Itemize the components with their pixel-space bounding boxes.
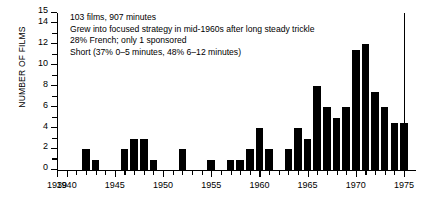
x-axis-tick-label: 1965 <box>298 180 318 190</box>
y-axis-tick: 15 <box>51 12 57 13</box>
annotation-line: Short (37% 0–5 minutes, 48% 6–12 minutes… <box>70 47 315 59</box>
y-axis-tick: 10 <box>51 64 57 65</box>
y-axis-tick <box>52 117 57 118</box>
bar <box>362 44 370 170</box>
y-axis-tick <box>52 138 57 139</box>
x-axis-line <box>57 170 416 171</box>
bar <box>294 128 302 170</box>
x-axis-tick <box>115 170 116 177</box>
x-axis-tick <box>337 170 338 175</box>
bar <box>130 139 138 170</box>
bar <box>371 92 379 171</box>
x-axis-tick-label: 1945 <box>105 180 125 190</box>
x-axis-tick <box>279 170 280 175</box>
x-axis-tick <box>346 170 347 175</box>
x-axis-tick <box>144 170 145 175</box>
annotation-line: Grew into focused strategy in mid-1960s … <box>70 24 315 36</box>
x-axis-tick <box>317 170 318 175</box>
x-axis-tick <box>67 170 68 177</box>
y-axis-tick: 4 <box>51 127 57 128</box>
bar <box>313 86 321 170</box>
x-axis-tick <box>105 170 106 175</box>
bar <box>82 149 90 170</box>
x-axis-tick <box>231 170 232 175</box>
x-axis-tick <box>394 170 395 175</box>
x-axis-tick <box>124 170 125 175</box>
x-axis-tick <box>153 170 154 175</box>
x-axis-tick <box>182 170 183 175</box>
bar <box>121 149 129 170</box>
x-axis-tick <box>76 170 77 175</box>
bar <box>323 107 331 170</box>
y-axis-tick-label: 14 <box>38 16 48 26</box>
x-axis-tick <box>298 170 299 175</box>
bar <box>381 107 389 170</box>
x-axis-tick-label: 1955 <box>201 180 221 190</box>
bar <box>265 149 273 170</box>
bar-chart-figure: NUMBER OF FILMS 0246810121415 1939194019… <box>0 0 439 208</box>
bar <box>140 139 148 170</box>
bar <box>236 160 244 170</box>
x-axis-tick <box>192 170 193 175</box>
x-axis-tick <box>259 170 260 177</box>
y-axis-line <box>57 13 58 170</box>
x-axis-tick <box>288 170 289 175</box>
x-axis-tick-label: 1950 <box>153 180 173 190</box>
x-axis-tick <box>211 170 212 177</box>
y-axis-tick <box>52 33 57 34</box>
annotation-text-block: 103 films, 907 minutesGrew into focused … <box>70 12 315 58</box>
x-axis-tick <box>365 170 366 175</box>
x-axis-tick <box>308 170 309 177</box>
x-axis-tick <box>404 170 405 177</box>
x-axis-tick <box>356 170 357 177</box>
x-axis-tick <box>134 170 135 175</box>
y-axis-tick: 12 <box>51 43 57 44</box>
y-axis-tick-label: 0 <box>43 162 48 172</box>
y-axis-tick-label: 4 <box>43 121 48 131</box>
bar <box>333 118 341 170</box>
y-axis-tick <box>52 158 57 159</box>
bar <box>92 160 100 170</box>
bar <box>400 123 408 170</box>
y-axis-tick: 2 <box>51 148 57 149</box>
y-axis-tick-label: 10 <box>38 58 48 68</box>
x-axis-tick <box>385 170 386 175</box>
bar <box>352 50 360 170</box>
x-axis-tick <box>57 170 58 177</box>
x-axis-tick-label: 1970 <box>346 180 366 190</box>
x-axis-tick <box>86 170 87 175</box>
x-axis-tick <box>327 170 328 175</box>
x-axis-tick <box>173 170 174 175</box>
bar <box>227 160 235 170</box>
bar <box>304 139 312 170</box>
y-axis-tick-label: 2 <box>43 141 48 151</box>
y-axis-tick-label: 6 <box>43 100 48 110</box>
bar <box>285 149 293 170</box>
y-axis-tick-label: 8 <box>43 79 48 89</box>
bar <box>391 123 399 170</box>
y-axis-tick <box>52 75 57 76</box>
annotation-line: 28% French; only 1 sponsored <box>70 35 315 47</box>
x-axis-tick <box>221 170 222 175</box>
x-axis-tick <box>250 170 251 175</box>
bar <box>246 149 254 170</box>
bar <box>179 149 187 170</box>
x-axis-tick-label: 1960 <box>249 180 269 190</box>
y-axis-tick: 14 <box>51 22 57 23</box>
x-axis-tick-label: 1975 <box>394 180 414 190</box>
y-axis-tick-label: 12 <box>38 37 48 47</box>
bar <box>207 160 215 170</box>
bar <box>342 107 350 170</box>
y-axis-tick: 8 <box>51 85 57 86</box>
annotation-line: 103 films, 907 minutes <box>70 12 315 24</box>
x-axis-tick <box>202 170 203 175</box>
x-axis-tick <box>375 170 376 175</box>
y-axis-tick-label: 15 <box>38 5 48 15</box>
x-axis-tick <box>163 170 164 177</box>
x-axis-tick-label: 1940 <box>57 180 77 190</box>
x-axis-tick <box>240 170 241 175</box>
y-axis-tick <box>52 96 57 97</box>
y-axis-tick <box>52 54 57 55</box>
y-axis-tick: 6 <box>51 106 57 107</box>
bar <box>150 160 158 170</box>
